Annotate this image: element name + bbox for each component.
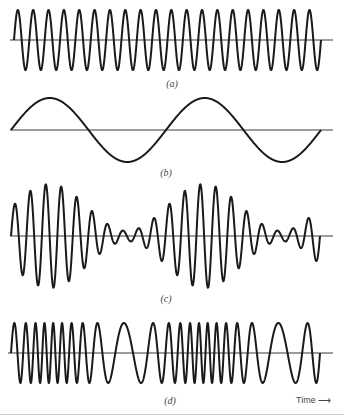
waveform-figure	[0, 0, 344, 416]
panel-a-label: (a)	[166, 78, 178, 89]
panel-b-label: (b)	[160, 167, 172, 178]
panel-c-waveform	[11, 184, 320, 287]
panel-a-waveform	[14, 10, 321, 70]
panel-c-am-wave	[10, 184, 333, 287]
panel-b-modulating-wave	[10, 98, 333, 162]
panel-d-fm-wave	[8, 323, 333, 383]
panel-c-label: (c)	[160, 293, 171, 304]
cut-off-caption	[0, 412, 344, 416]
time-label-text: Time	[296, 395, 316, 405]
panel-d-label: (d)	[164, 395, 176, 406]
time-axis-label: Time ⟶	[296, 395, 331, 405]
arrow-right-icon: ⟶	[318, 395, 331, 405]
panel-a-carrier-wave	[10, 10, 333, 70]
